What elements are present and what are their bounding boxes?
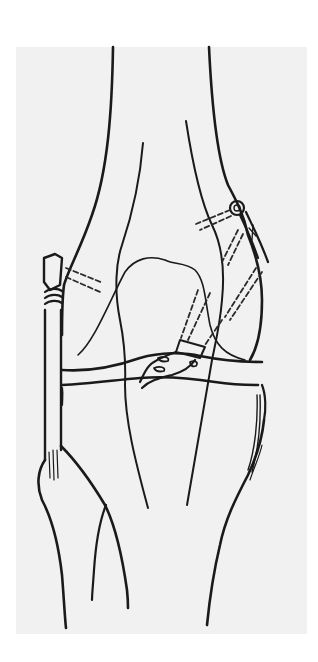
lateral-graft-strand [45,310,61,480]
tunnel-screw-paths [181,230,262,345]
patella-outline [116,121,223,508]
tibia-outline [38,420,264,628]
knee-illustration [0,0,318,662]
intercondylar-notch [78,258,245,360]
graft-intercondylar [140,352,197,388]
medial-staple [176,340,205,358]
joint-line [62,353,265,420]
